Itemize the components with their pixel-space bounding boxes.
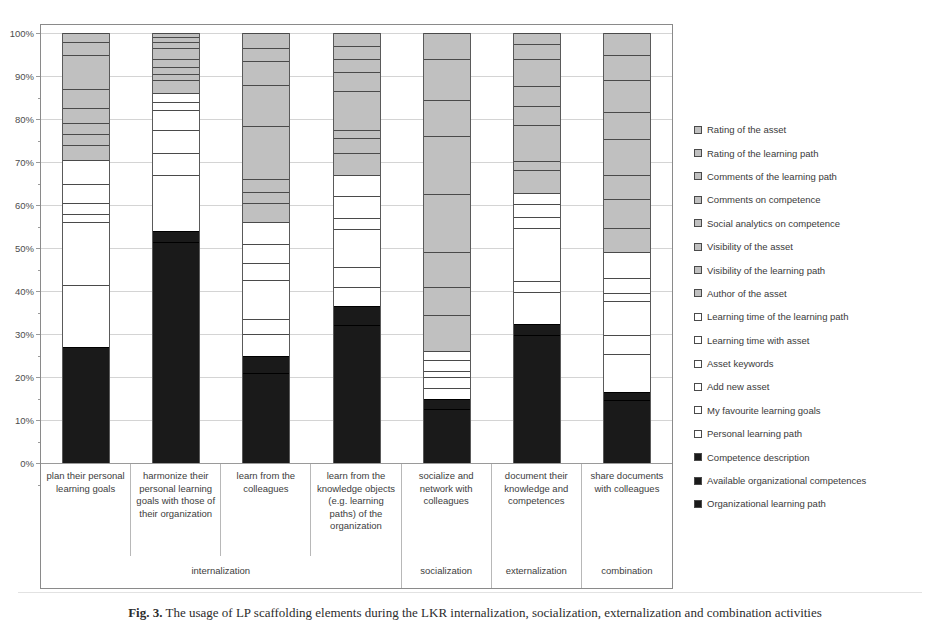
bar-segment	[153, 80, 199, 93]
legend-item-label: Add new asset	[707, 381, 769, 392]
legend-item[interactable]: Personal learning path	[694, 422, 934, 445]
figure-caption: Fig. 3. The usage of LP scaffolding elem…	[80, 604, 870, 624]
legend-item[interactable]: Available organizational competences	[694, 469, 934, 492]
bar-segment	[63, 390, 109, 463]
bar-segment	[424, 194, 470, 252]
y-axis-tick-label: 50%	[0, 243, 34, 254]
bar-segment	[514, 59, 560, 87]
bar-segment	[514, 125, 560, 161]
legend-item[interactable]: My favourite learning goals	[694, 399, 934, 422]
bar-segment	[604, 400, 650, 424]
bar-segment	[334, 325, 380, 420]
bar-segment	[514, 86, 560, 105]
legend-swatch-icon	[694, 266, 702, 274]
legend-item[interactable]: Asset keywords	[694, 352, 934, 375]
bar-segment	[514, 281, 560, 292]
bar-segment	[153, 175, 199, 231]
bar-segment	[424, 409, 470, 431]
legend-item[interactable]: Add new asset	[694, 375, 934, 398]
legend-item-label: Visibility of the learning path	[707, 265, 825, 276]
plot-area	[41, 33, 672, 463]
bar-segment	[514, 33, 560, 44]
bar-segment	[424, 360, 470, 371]
bar-stack[interactable]	[152, 33, 200, 463]
bar-stack[interactable]	[603, 33, 651, 463]
legend-item[interactable]: Organizational learning path	[694, 492, 934, 515]
legend-swatch-icon	[694, 406, 702, 414]
bar-segment	[63, 203, 109, 214]
legend-item[interactable]: Competence description	[694, 445, 934, 468]
bar-segment	[63, 145, 109, 160]
bar-segment	[63, 214, 109, 223]
legend-item-label: Rating of the learning path	[707, 148, 818, 159]
bar-segment	[334, 72, 380, 91]
y-axis-tick-label: 30%	[0, 329, 34, 340]
bar-segment	[243, 334, 289, 356]
legend-item-label: Rating of the asset	[707, 124, 786, 135]
bar-segment	[243, 244, 289, 263]
bar-segment	[63, 108, 109, 123]
bar-segment	[334, 130, 380, 139]
bar-segment	[243, 192, 289, 203]
legend-item-label: Available organizational competences	[707, 475, 866, 486]
bar-segment	[604, 139, 650, 175]
legend-item[interactable]: Comments on competence	[694, 188, 934, 211]
y-axis-tick-label: 40%	[0, 286, 34, 297]
bar-stack[interactable]	[62, 33, 110, 463]
bar-segment	[243, 85, 289, 126]
bar-segment	[63, 160, 109, 184]
group-label: externalization	[492, 556, 582, 588]
bar-stack[interactable]	[513, 33, 561, 463]
legend-swatch-icon	[694, 313, 702, 321]
legend-item[interactable]: Comments of the learning path	[694, 165, 934, 188]
legend-item-label: Learning time with asset	[707, 335, 809, 346]
bar-stack[interactable]	[333, 33, 381, 463]
bar-segment	[604, 335, 650, 353]
legend-item[interactable]: Visibility of the learning path	[694, 258, 934, 281]
category-label: socialize and network with colleagues	[402, 464, 492, 556]
bar-stack[interactable]	[423, 33, 471, 463]
bar-segment	[604, 301, 650, 335]
bar-segment	[604, 55, 650, 79]
bar-segment	[424, 388, 470, 399]
legend-swatch-icon	[694, 430, 702, 438]
bar-segment	[334, 229, 380, 268]
legend-swatch-icon	[694, 196, 702, 204]
bar-segment	[424, 315, 470, 352]
legend-item[interactable]: Learning time with asset	[694, 329, 934, 352]
bar-segment	[63, 285, 109, 347]
bar-segment	[334, 267, 380, 286]
legend-item-label: Organizational learning path	[707, 498, 826, 509]
legend-swatch-icon	[694, 336, 702, 344]
legend-item-label: Author of the asset	[707, 288, 787, 299]
y-axis-tick-label: 10%	[0, 415, 34, 426]
bar-stack[interactable]	[242, 33, 290, 463]
bar-segment	[424, 100, 470, 137]
legend-item[interactable]: Rating of the asset	[694, 118, 934, 141]
bar-segment	[334, 218, 380, 229]
legend-swatch-icon	[694, 360, 702, 368]
bar-segment	[63, 55, 109, 89]
legend-item[interactable]: Social analytics on competence	[694, 212, 934, 235]
y-axis-tick-label: 0%	[0, 458, 34, 469]
bar-segment	[604, 354, 650, 393]
bar-segment	[334, 306, 380, 325]
bar-segment	[153, 110, 199, 129]
y-axis-tick-label: 20%	[0, 372, 34, 383]
group-label: socialization	[402, 556, 492, 588]
bar-segment	[424, 431, 470, 463]
bar-segment	[334, 196, 380, 218]
legend-item[interactable]: Rating of the learning path	[694, 141, 934, 164]
legend-item[interactable]: Visibility of the asset	[694, 235, 934, 258]
bar-segment	[63, 134, 109, 145]
y-axis-tick-label: 90%	[0, 71, 34, 82]
bar-segment	[514, 380, 560, 463]
legend-item-label: Visibility of the asset	[707, 241, 793, 252]
legend-item[interactable]: Learning time of the learning path	[694, 305, 934, 328]
legend-item[interactable]: Author of the asset	[694, 282, 934, 305]
bar-segment	[153, 48, 199, 59]
bar-segment	[424, 287, 470, 315]
bar-segment	[334, 420, 380, 463]
bar-segment	[243, 179, 289, 192]
bar-segment	[514, 324, 560, 335]
